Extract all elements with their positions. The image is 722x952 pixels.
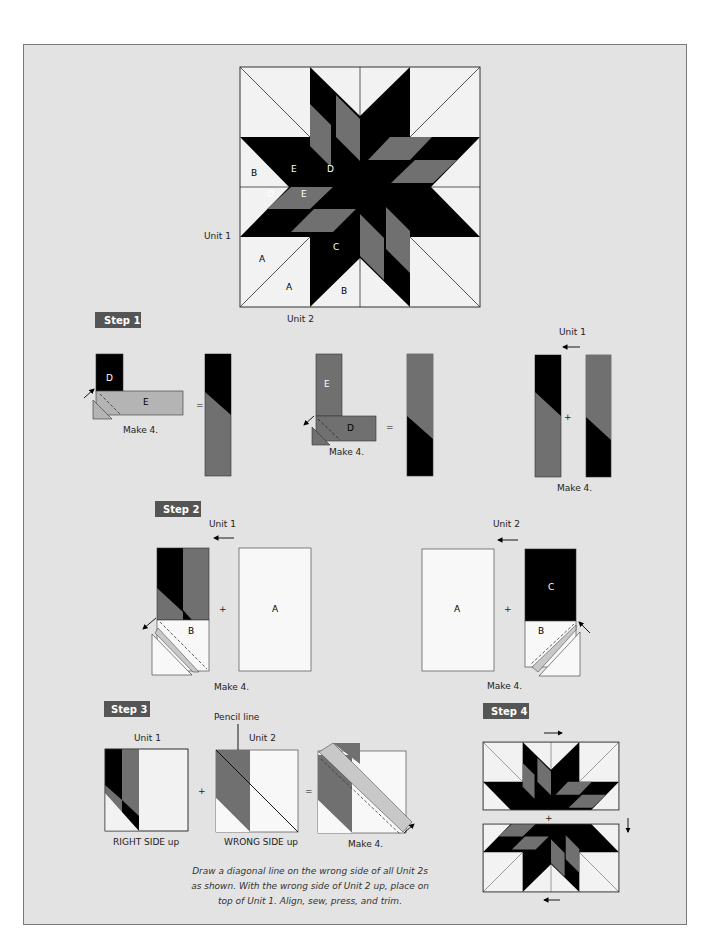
make-caption: Make 4. <box>214 682 249 692</box>
piece-label-c: C <box>333 242 339 252</box>
wrong-side-up-caption: WRONG SIDE up <box>224 837 298 847</box>
stitched-square <box>318 743 412 834</box>
plus-sign: + <box>198 786 206 796</box>
piece-label-a: A <box>454 604 461 614</box>
piece-label-a: A <box>259 254 266 264</box>
step-2: Step 2 Unit 1 B + A Make 4. Unit 2 A + C <box>143 501 590 692</box>
strip-dark-top <box>205 354 231 476</box>
step-3: Step 3 Unit 1 RIGHT SIDE up + Pencil lin… <box>104 701 429 906</box>
plus-sign: + <box>504 604 512 614</box>
piece-label-d: D <box>106 373 113 383</box>
unit2-label: Unit 2 <box>249 733 276 743</box>
piece-label-b: B <box>188 626 194 636</box>
unit1-label: Unit 1 <box>559 327 586 337</box>
plus-sign: + <box>219 604 227 614</box>
piece-label-d: D <box>267 189 274 199</box>
plus-sign: + <box>564 412 572 422</box>
make-caption: Make 4. <box>329 447 364 457</box>
unit2-assembly: C B <box>525 549 590 676</box>
step-badge-label: Step 2 <box>163 504 199 515</box>
unit1-label: Unit 1 <box>204 231 231 241</box>
make-caption: Make 4. <box>487 681 522 691</box>
unit2-square <box>216 750 298 832</box>
make-caption: Make 4. <box>557 483 592 493</box>
instruction-line-3: top of Unit 1. Align, sew, press, and tr… <box>218 896 402 906</box>
step-badge-label: Step 1 <box>104 315 140 326</box>
instruction-line-2: as shown. With the wrong side of Unit 2 … <box>191 881 429 891</box>
unit2-label: Unit 2 <box>287 314 314 324</box>
instruction-line-1: Draw a diagonal line on the wrong side o… <box>192 866 428 876</box>
step-badge-label: Step 4 <box>491 706 527 717</box>
step-badge-label: Step 3 <box>111 704 147 715</box>
equals-sign: = <box>196 400 204 410</box>
step-4: Step 4 + <box>483 703 628 900</box>
right-side-up-caption: RIGHT SIDE up <box>113 837 180 847</box>
plus-sign: + <box>545 813 553 823</box>
piece-label-b: B <box>341 286 347 296</box>
make-caption: Make 4. <box>123 425 158 435</box>
step-1: Step 1 D E = Make 4. E D = Make 4. Unit … <box>84 312 611 493</box>
unit1-square <box>105 749 188 831</box>
strip-medium-top <box>586 355 611 477</box>
quilt-diagram: B E D D E C A A B Unit 1 Unit 2 Step 1 D… <box>0 0 722 952</box>
piece-label-b: B <box>538 626 544 636</box>
unit1-assembly: B <box>143 548 209 675</box>
piece-label-e: E <box>301 189 307 199</box>
piece-label-e: E <box>324 379 330 389</box>
make-caption: Make 4. <box>348 839 383 849</box>
unit1-label: Unit 1 <box>134 733 161 743</box>
piece-label-b: B <box>251 168 257 178</box>
piece-label-a: A <box>272 604 279 614</box>
finished-star-block: B E D D E C A A B Unit 1 Unit 2 <box>204 67 480 324</box>
equals-sign: = <box>386 422 394 432</box>
equals-sign: = <box>305 786 313 796</box>
unit1-label: Unit 1 <box>209 519 236 529</box>
piece-label-d: D <box>327 164 334 174</box>
piece-label-e: E <box>143 397 149 407</box>
strip-dark-top <box>535 355 561 477</box>
piece-label-c: C <box>548 582 554 592</box>
pencil-line-callout: Pencil line <box>214 712 260 722</box>
piece-label-e: E <box>291 164 297 174</box>
piece-label-d: D <box>347 423 354 433</box>
unit2-label: Unit 2 <box>493 519 520 529</box>
strip-medium-top <box>407 354 433 476</box>
piece-label-a: A <box>286 282 293 292</box>
